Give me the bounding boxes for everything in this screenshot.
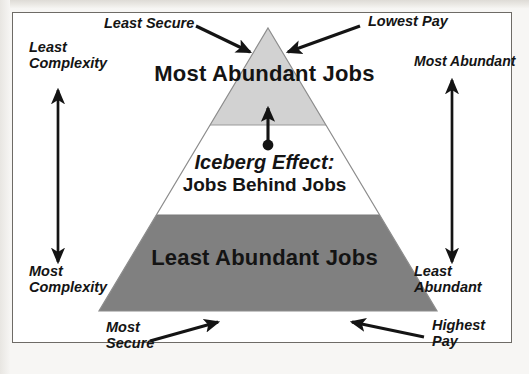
label-highest-pay: Highest Pay [432,318,485,349]
highest-pay-arrow [352,322,424,337]
least-secure-arrow [196,26,250,52]
iceberg-effect-subtitle: Jobs Behind Jobs [0,175,529,196]
lowest-pay-arrow [288,26,360,52]
most-secure-arrow [150,322,218,341]
pyramid-bottom-title: Least Abundant Jobs [0,246,529,270]
label-lowest-pay: Lowest Pay [368,14,448,30]
pyramid-diagram: Least Secure Lowest Pay Least Complexity… [0,0,529,374]
pyramid-top-title: Most Abundant Jobs [0,62,529,86]
iceberg-effect-title: Iceberg Effect: [0,152,529,174]
label-most-secure: Most Secure [106,320,154,351]
label-least-secure: Least Secure [104,16,194,32]
iceberg-pointer-dot [263,140,274,151]
